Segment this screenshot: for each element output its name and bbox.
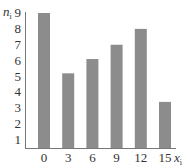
x-tick-0: 0 [41,150,48,165]
y-tick-1: 1 [15,132,22,147]
y-tick-5: 5 [15,69,22,84]
y-axis-label: ni [3,4,13,21]
x-tick-6: 6 [89,150,96,165]
y-tick-3: 3 [15,100,22,115]
bar-0 [38,13,50,148]
y-tick-6: 6 [15,53,22,68]
x-tick-15: 15 [159,150,172,165]
bar-6 [86,59,98,148]
y-tick-9: 9 [15,5,22,20]
bars-group [38,13,171,148]
bar-3 [62,73,74,148]
bar-9 [111,45,123,148]
x-tick-3: 3 [65,150,72,165]
bar-12 [135,29,147,148]
y-tick-8: 8 [15,21,22,36]
x-tick-12: 12 [134,150,147,165]
y-tick-7: 7 [15,37,22,52]
y-tick-4: 4 [15,84,22,99]
bar-15 [159,102,171,148]
y-tick-2: 2 [15,116,22,131]
x-tick-labels: 03691215 [41,150,172,165]
x-tick-9: 9 [113,150,120,165]
y-tick-labels: 123456789 [15,5,22,147]
bar-chart: 123456789 03691215 ni xi [0,0,190,168]
x-axis-label: xi [173,150,183,167]
